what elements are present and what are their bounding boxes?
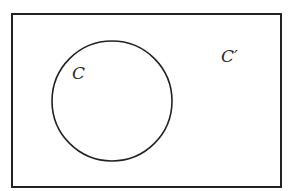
set-c-label: C [72,63,85,83]
set-c-circle [52,41,172,161]
complement-label: C′ [221,46,238,66]
venn-diagram: C C′ [0,0,291,191]
